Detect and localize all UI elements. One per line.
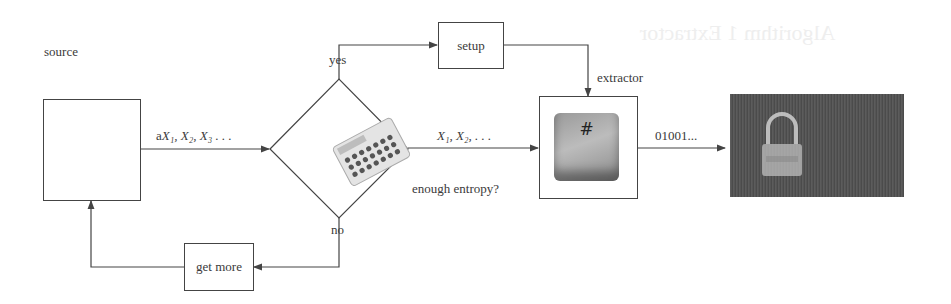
arrow-yes-to-setup (339, 45, 437, 79)
extractor-box: # (539, 96, 638, 199)
padlock-icon (730, 94, 904, 197)
setup-label: setup (439, 38, 503, 54)
flowchart-canvas: Algorithm 1 Extractor source (0, 0, 951, 304)
arrow-get-more-to-source (91, 201, 184, 267)
get-more-label: get more (185, 259, 253, 275)
edge-label-source-stream: aX₁, X₂, X₃ . . . (156, 128, 232, 144)
padlock-binary-image (730, 94, 904, 197)
arrow-no-to-get-more (254, 218, 339, 267)
get-more-box: get more (184, 243, 254, 291)
edge-label-math: X₁, X₂, X₃ . . . (162, 128, 232, 143)
hash-key-image: # (554, 113, 619, 181)
yes-label: yes (329, 52, 346, 68)
edge-label-extracted-stream: X₁, X₂, . . . (437, 128, 491, 144)
arrow-setup-to-extractor (503, 45, 588, 96)
calculator-image (330, 116, 412, 186)
source-box (43, 99, 141, 201)
setup-box: setup (438, 22, 504, 69)
extractor-label: extractor (597, 70, 643, 86)
no-label: no (331, 222, 344, 238)
source-label: source (44, 44, 78, 60)
edge-label-output-bits: 01001... (655, 128, 697, 144)
hash-key-glyph: # (554, 119, 619, 139)
decision-label: enough entropy? (412, 181, 499, 197)
